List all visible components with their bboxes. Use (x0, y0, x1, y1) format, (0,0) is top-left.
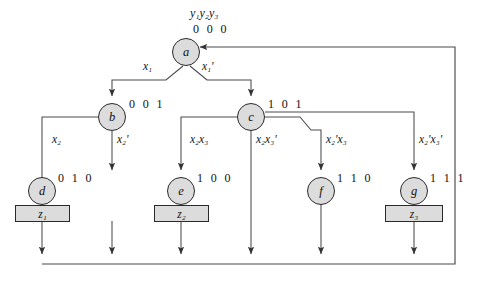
output-box-z2[interactable]: z₂ (154, 205, 209, 222)
state-code-b: 0 0 1 (129, 97, 165, 112)
state-node-a[interactable]: a (172, 38, 200, 66)
state-node-g[interactable]: g (400, 177, 428, 205)
edge-label-b-to-feedback: x₂ (52, 133, 61, 145)
edge-label-c-to-f: x₂'x₃ (326, 133, 347, 145)
state-node-c[interactable]: c (237, 103, 265, 131)
edge-a-to-c (190, 66, 251, 96)
state-code-e: 1 0 0 (197, 171, 233, 186)
state-code-f: 1 1 0 (337, 171, 373, 186)
state-code-a: 0 0 0 (193, 22, 229, 37)
edge-label-a-to-b: x₁ (143, 60, 152, 72)
state-node-e[interactable]: e (167, 177, 195, 205)
edge-label-b-to-d: x₂' (117, 133, 129, 145)
output-box-z3[interactable]: z₃ (385, 205, 443, 222)
edge-label-c-to-feedback: x₂x₃' (256, 133, 277, 145)
state-transition-diagram: y₁y₂y₃ 0 0 0 0 0 1 1 0 1 0 1 0 1 0 0 1 1… (0, 0, 492, 284)
state-code-g: 1 1 1 (430, 171, 466, 186)
state-code-d: 0 1 0 (58, 171, 94, 186)
edge-label-a-to-c: x₁' (202, 60, 214, 72)
state-node-d[interactable]: d (28, 177, 56, 205)
state-variable-header: y₁y₂y₃ (190, 6, 219, 21)
state-node-b[interactable]: b (98, 103, 126, 131)
state-node-f[interactable]: f (307, 177, 335, 205)
edge-label-c-to-g: x₂'x₃' (419, 133, 442, 145)
edge-label-c-to-e: x₂x₃ (190, 133, 208, 145)
state-code-c: 1 0 1 (268, 97, 304, 112)
output-box-z1[interactable]: z₁ (15, 205, 70, 222)
